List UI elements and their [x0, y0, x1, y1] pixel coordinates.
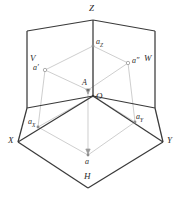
construction-lower-face [38, 96, 135, 155]
plane-label-w: W [144, 54, 152, 63]
marker-point-A [87, 89, 89, 91]
plane-V-edge-top [27, 20, 93, 31]
marker-a-profile [126, 61, 129, 64]
projection-drawing-canvas [0, 0, 185, 198]
connector-afront-ax [38, 70, 45, 127]
marker-origin-O [92, 95, 94, 97]
marker-a-z [92, 45, 95, 48]
plane-label-h: H [84, 172, 91, 181]
point-label-a-y-sub: Y [140, 117, 143, 123]
arrowhead-at-atop [86, 149, 90, 154]
point-label-a-top: a [85, 158, 89, 166]
plane-W-edge-top [93, 20, 155, 31]
projection-diagram: Z X Y O V W H A a′ a″ a aZ aX aY [0, 0, 185, 198]
point-label-a-x-sub: X [32, 122, 35, 128]
plane-label-v: V [30, 54, 36, 63]
connector-aprofile-ay [128, 63, 135, 122]
point-label-a-profile: a″ [132, 57, 139, 65]
point-label-a-z: aZ [96, 38, 103, 48]
axis-label-z: Z [89, 4, 94, 13]
marker-a-front [43, 68, 46, 71]
point-label-a-y: aY [136, 113, 143, 123]
point-label-A: A [82, 79, 87, 87]
plane-H-edge-right [88, 142, 163, 188]
point-label-a-front: a′ [33, 64, 39, 72]
origin-label-o: O [96, 92, 103, 101]
axis-label-x: X [8, 136, 14, 145]
axis-label-y: Y [167, 136, 172, 145]
point-label-a-x: aX [28, 118, 35, 128]
marker-a-x [37, 126, 40, 129]
marker-a-top [87, 154, 90, 157]
point-label-a-z-sub: Z [100, 42, 103, 48]
projection-planes-group [18, 20, 163, 188]
